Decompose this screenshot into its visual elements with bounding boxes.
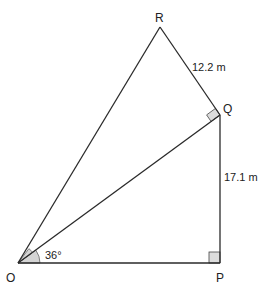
- right-angle-marker-p: [209, 252, 220, 263]
- edge-ro: [18, 27, 160, 263]
- vertex-label-p: P: [216, 271, 224, 285]
- vertex-label-o: O: [6, 271, 15, 285]
- vertex-label-r: R: [155, 11, 164, 25]
- edge-oq: [18, 115, 220, 263]
- length-label-qr: 12.2 m: [192, 61, 226, 73]
- geometry-diagram: R Q P O 12.2 m 17.1 m 36°: [0, 0, 263, 289]
- angle-label-qop: 36°: [45, 249, 62, 261]
- length-label-pq: 17.1 m: [224, 171, 258, 183]
- vertex-label-q: Q: [223, 102, 232, 116]
